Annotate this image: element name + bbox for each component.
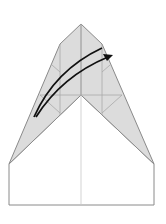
paper-base bbox=[9, 95, 154, 205]
origami-diagram bbox=[0, 0, 166, 224]
